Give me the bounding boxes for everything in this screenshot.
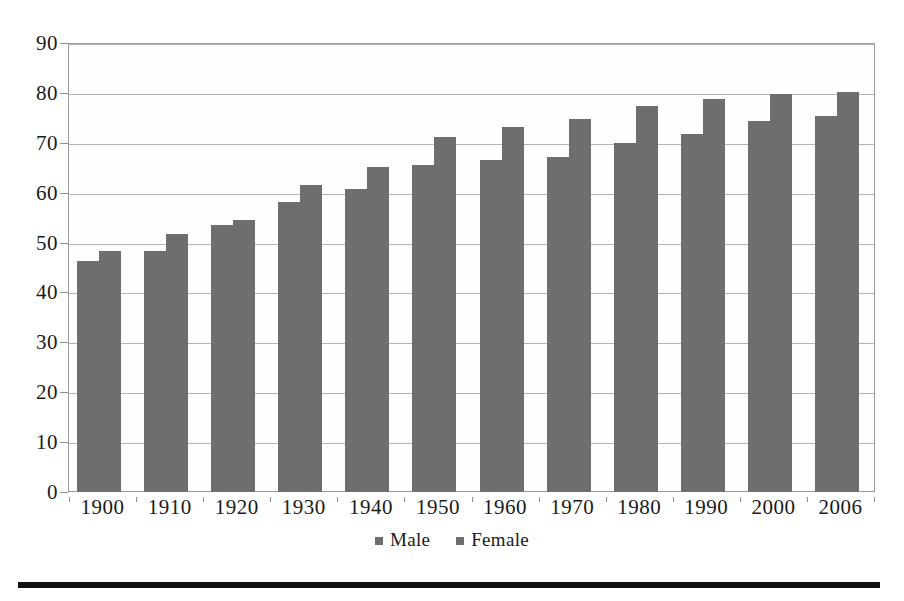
y-tick-mark bbox=[60, 342, 68, 343]
x-tick-label: 1980 bbox=[617, 497, 661, 518]
x-tick-label: 2006 bbox=[818, 497, 862, 518]
x-tick-mark bbox=[404, 497, 405, 502]
x-tick-mark bbox=[136, 497, 137, 502]
bar-female-1900 bbox=[99, 251, 121, 492]
bar-female-1940 bbox=[367, 167, 389, 492]
y-tick-mark bbox=[60, 143, 68, 144]
y-tick-mark bbox=[60, 492, 68, 493]
x-tick-label: 1950 bbox=[416, 497, 460, 518]
x-tick-mark bbox=[203, 497, 204, 502]
y-tick-label: 30 bbox=[36, 332, 58, 353]
x-tick-label: 1910 bbox=[148, 497, 192, 518]
y-tick-mark bbox=[60, 243, 68, 244]
legend-label-female: Female bbox=[471, 530, 529, 549]
x-tick-label: 1990 bbox=[684, 497, 728, 518]
bottom-divider bbox=[18, 582, 880, 588]
square-marker-icon bbox=[456, 537, 464, 545]
bar-male-1990 bbox=[681, 134, 703, 492]
x-tick-mark bbox=[740, 497, 741, 502]
bar-female-1920 bbox=[233, 220, 255, 492]
legend-label-male: Male bbox=[390, 530, 430, 549]
y-tick-label: 0 bbox=[47, 482, 58, 503]
bar-group bbox=[539, 44, 606, 492]
y-tick-label: 40 bbox=[36, 282, 58, 303]
bar-male-1940 bbox=[345, 189, 367, 492]
bar-male-2000 bbox=[748, 121, 770, 492]
bar-group bbox=[203, 44, 270, 492]
square-marker-icon bbox=[375, 537, 383, 545]
bar-group bbox=[673, 44, 740, 492]
bars-layer bbox=[69, 44, 874, 492]
x-tick-mark bbox=[69, 497, 70, 502]
bar-group bbox=[807, 44, 874, 492]
bar-male-1930 bbox=[278, 202, 300, 492]
bar-female-1970 bbox=[569, 119, 591, 492]
bar-chart-figure: 0102030405060708090 19001910192019301940… bbox=[0, 0, 904, 601]
bar-female-1960 bbox=[502, 127, 524, 492]
y-axis: 0102030405060708090 bbox=[0, 43, 58, 492]
y-tick-label: 20 bbox=[36, 382, 58, 403]
bar-female-1930 bbox=[300, 185, 322, 492]
bar-male-1970 bbox=[547, 157, 569, 492]
bar-female-1990 bbox=[703, 99, 725, 492]
x-tick-label: 2000 bbox=[751, 497, 795, 518]
x-tick-mark bbox=[270, 497, 271, 502]
x-tick-mark bbox=[337, 497, 338, 502]
bar-female-1950 bbox=[434, 137, 456, 492]
y-tick-label: 70 bbox=[36, 132, 58, 153]
bar-female-1910 bbox=[166, 234, 188, 492]
bar-male-1960 bbox=[480, 160, 502, 492]
bar-male-1980 bbox=[614, 143, 636, 492]
bar-male-1950 bbox=[412, 165, 434, 492]
x-tick-mark bbox=[673, 497, 674, 502]
x-tick-label: 1940 bbox=[349, 497, 393, 518]
x-axis: 1900191019201930194019501960197019801990… bbox=[69, 497, 874, 527]
x-tick-mark bbox=[807, 497, 808, 502]
bar-male-1910 bbox=[144, 251, 166, 492]
x-tick-mark bbox=[539, 497, 540, 502]
bar-male-2006 bbox=[815, 116, 837, 492]
y-tick-label: 60 bbox=[36, 182, 58, 203]
bar-group bbox=[472, 44, 539, 492]
y-tick-mark bbox=[60, 43, 68, 44]
x-tick-label: 1970 bbox=[550, 497, 594, 518]
legend-item-female: Female bbox=[456, 530, 529, 549]
bar-male-1900 bbox=[77, 261, 99, 492]
bar-female-2006 bbox=[837, 92, 859, 492]
bar-female-1980 bbox=[636, 106, 658, 492]
x-tick-mark bbox=[606, 497, 607, 502]
y-tick-mark bbox=[60, 442, 68, 443]
bar-group bbox=[740, 44, 807, 492]
x-tick-label: 1900 bbox=[81, 497, 125, 518]
bar-group bbox=[136, 44, 203, 492]
bar-group bbox=[606, 44, 673, 492]
y-tick-label: 80 bbox=[36, 82, 58, 103]
y-tick-mark bbox=[60, 292, 68, 293]
legend-item-male: Male bbox=[375, 530, 430, 549]
y-tick-label: 50 bbox=[36, 232, 58, 253]
bar-group bbox=[404, 44, 471, 492]
chart-legend: Male Female bbox=[0, 530, 904, 549]
y-tick-mark bbox=[60, 193, 68, 194]
x-tick-label: 1930 bbox=[282, 497, 326, 518]
bar-male-1920 bbox=[211, 225, 233, 492]
bar-group bbox=[270, 44, 337, 492]
y-tick-label: 10 bbox=[36, 432, 58, 453]
bar-female-2000 bbox=[770, 94, 792, 492]
y-tick-mark bbox=[60, 93, 68, 94]
bar-group bbox=[337, 44, 404, 492]
x-tick-label: 1960 bbox=[483, 497, 527, 518]
x-tick-mark bbox=[874, 497, 875, 502]
y-tick-label: 90 bbox=[36, 33, 58, 54]
x-tick-label: 1920 bbox=[215, 497, 259, 518]
y-tick-mark bbox=[60, 392, 68, 393]
bar-group bbox=[69, 44, 136, 492]
x-tick-mark bbox=[472, 497, 473, 502]
